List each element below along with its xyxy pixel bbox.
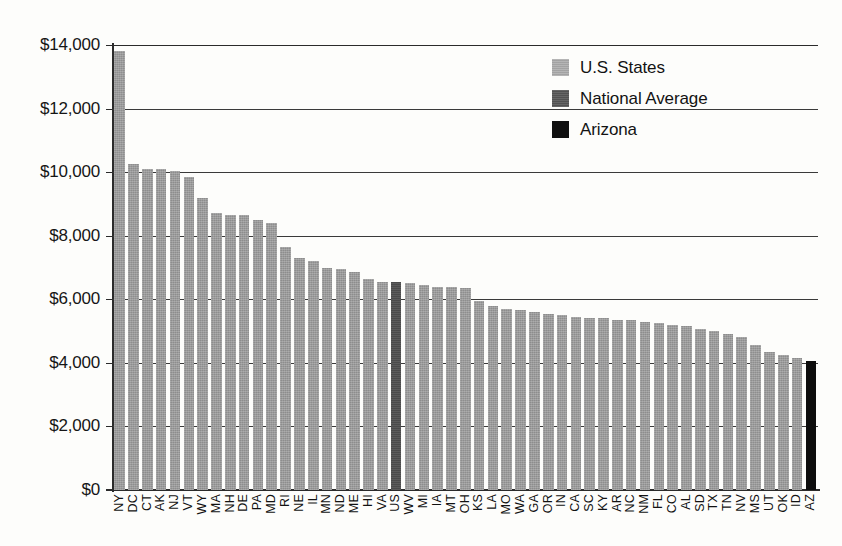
- bar-la: [488, 306, 499, 490]
- bar-fl: [654, 323, 665, 490]
- x-axis-label-hi: HI: [362, 494, 376, 507]
- y-axis-tick-label: $10,000: [0, 162, 100, 182]
- x-axis-label-nm: NM: [638, 494, 652, 514]
- bar-nd: [336, 269, 347, 490]
- y-axis-tick: [106, 299, 113, 300]
- x-axis-label-sc: SC: [583, 494, 597, 512]
- x-axis-label-ma: MA: [210, 494, 224, 513]
- x-axis-label-wy: WY: [196, 494, 210, 515]
- bar-nv: [736, 337, 747, 490]
- chart-legend: U.S. StatesNational AverageArizona: [552, 52, 782, 145]
- bar-md: [266, 223, 277, 490]
- bar-ky: [598, 318, 609, 490]
- bar-nh: [225, 215, 236, 490]
- bar-co: [667, 325, 678, 490]
- bar-wa: [515, 310, 526, 490]
- x-axis-label-ia: IA: [431, 494, 445, 506]
- legend-label: Arizona: [580, 120, 637, 140]
- x-axis-label-wv: WV: [403, 494, 417, 515]
- x-axis-label-mt: MT: [445, 494, 459, 512]
- x-axis-label-id: ID: [790, 494, 804, 507]
- legend-item-states: U.S. States: [552, 52, 782, 83]
- x-axis-label-nc: NC: [624, 494, 638, 512]
- legend-label: U.S. States: [580, 58, 665, 78]
- bar-mt: [446, 287, 457, 490]
- bar-wv: [405, 283, 416, 490]
- legend-swatch-icon: [552, 90, 569, 107]
- bar-ms: [750, 345, 761, 490]
- x-axis-label-tx: TX: [707, 494, 721, 510]
- y-axis-tick-label: $8,000: [0, 226, 100, 246]
- bar-id: [792, 358, 803, 490]
- y-axis-tick: [106, 236, 113, 237]
- x-axis-label-pa: PA: [251, 494, 265, 510]
- x-axis-label-mi: MI: [417, 494, 431, 508]
- x-axis-label-ri: RI: [279, 494, 293, 507]
- bar-mn: [322, 268, 333, 491]
- x-axis-label-us: US: [389, 494, 403, 512]
- bar-ia: [432, 287, 443, 490]
- x-axis-label-nd: ND: [334, 494, 348, 512]
- x-axis-label-ky: KY: [597, 494, 611, 511]
- x-axis-label-ga: GA: [528, 494, 542, 512]
- x-axis-label-ms: MS: [749, 494, 763, 513]
- bar-dc: [128, 164, 139, 490]
- x-axis-label-in: IN: [555, 494, 569, 507]
- x-axis-label-me: ME: [348, 494, 362, 513]
- bar-az: [806, 361, 817, 490]
- legend-swatch-icon: [552, 121, 569, 138]
- bar-ny: [114, 51, 125, 490]
- bar-ma: [211, 213, 222, 490]
- bar-de: [239, 215, 250, 490]
- legend-swatch-icon: [552, 59, 569, 76]
- x-axis-label-az: AZ: [804, 494, 818, 510]
- legend-label: National Average: [580, 89, 708, 109]
- y-axis-tick: [106, 363, 113, 364]
- y-axis-tick-label: $12,000: [0, 99, 100, 119]
- bar-mi: [419, 285, 430, 490]
- x-axis-label-tn: TN: [721, 494, 735, 511]
- x-axis-label-ny: NY: [113, 494, 127, 512]
- x-axis-label-la: LA: [486, 494, 500, 510]
- bar-ut: [764, 352, 775, 490]
- bar-sc: [584, 318, 595, 490]
- x-axis-label-ut: UT: [763, 494, 777, 511]
- x-axis-label-ca: CA: [569, 494, 583, 512]
- x-axis-label-or: OR: [542, 494, 556, 513]
- y-axis-tick-label: $2,000: [0, 416, 100, 436]
- bar-ar: [612, 320, 623, 490]
- y-axis-tick-label: $0: [0, 480, 100, 500]
- x-axis-label-mn: MN: [320, 494, 334, 514]
- bar-vt: [184, 177, 195, 490]
- x-axis-label-ok: OK: [777, 494, 791, 512]
- legend-item-national: National Average: [552, 83, 782, 114]
- x-axis-label-al: AL: [680, 494, 694, 510]
- x-axis-label-mo: MO: [500, 494, 514, 515]
- bar-nj: [170, 171, 181, 490]
- bar-us: [391, 282, 402, 490]
- bar-ak: [156, 169, 167, 490]
- bar-ct: [142, 169, 153, 490]
- x-axis-label-ks: KS: [472, 494, 486, 511]
- bar-ok: [778, 355, 789, 490]
- x-axis-label-nv: NV: [735, 494, 749, 512]
- bar-tn: [723, 334, 734, 490]
- x-axis-label-dc: DC: [127, 494, 141, 512]
- x-axis-label-ak: AK: [154, 494, 168, 511]
- x-axis-label-vt: VT: [182, 494, 196, 510]
- bar-nm: [640, 322, 651, 490]
- bar-ri: [280, 247, 291, 490]
- bar-pa: [253, 220, 264, 490]
- x-axis-label-co: CO: [666, 494, 680, 513]
- y-axis-tick-label: $6,000: [0, 289, 100, 309]
- y-axis-tick: [106, 109, 113, 110]
- x-axis-tick-labels: NYDCCTAKNJVTWYMANHDEPAMDRINEILMNNDMEHIVA…: [113, 494, 818, 544]
- x-axis-label-il: IL: [307, 494, 321, 505]
- x-axis-label-de: DE: [237, 494, 251, 512]
- bar-me: [349, 272, 360, 490]
- bar-in: [557, 315, 568, 490]
- y-axis-tick-label: $4,000: [0, 353, 100, 373]
- bar-nc: [626, 320, 637, 490]
- bar-or: [543, 314, 554, 490]
- bar-wy: [197, 198, 208, 490]
